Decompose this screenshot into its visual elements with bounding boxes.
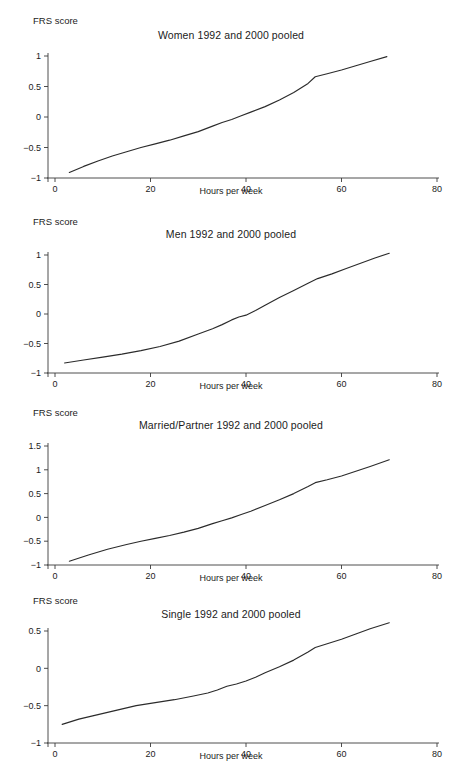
- x-axis-label-men: Hours per week: [0, 381, 462, 391]
- y-tick-label: −0.5: [23, 701, 41, 711]
- chart-panel-women: FRS score Women 1992 and 2000 pooled −1−…: [0, 0, 462, 196]
- x-axis-label-single: Hours per week: [0, 751, 462, 761]
- data-line-men: [65, 253, 390, 363]
- figure-panel-grid: FRS score Women 1992 and 2000 pooled −1−…: [0, 0, 462, 764]
- y-tick-label: 0: [36, 513, 41, 523]
- y-tick-label: 0: [36, 309, 41, 319]
- y-tick-label: 0.5: [28, 626, 41, 636]
- y-tick-label: 0: [36, 112, 41, 122]
- data-line-women: [69, 57, 387, 173]
- y-tick-label: 0: [36, 664, 41, 674]
- chart-panel-married: FRS score Married/Partner 1992 and 2000 …: [0, 391, 462, 583]
- data-line-single: [62, 623, 389, 725]
- y-tick-label: 1.5: [28, 441, 41, 451]
- plot-area-women: −1−0.500.51020406080: [0, 0, 462, 196]
- chart-panel-men: FRS score Men 1992 and 2000 pooled −1−0.…: [0, 196, 462, 391]
- x-axis-label-married: Hours per week: [0, 573, 462, 583]
- y-tick-label: −1: [31, 738, 41, 748]
- y-tick-label: −0.5: [23, 143, 41, 153]
- x-axis-label-women: Hours per week: [0, 186, 462, 196]
- y-tick-label: 1: [36, 51, 41, 61]
- y-tick-label: 1: [36, 465, 41, 475]
- chart-panel-single: FRS score Single 1992 and 2000 pooled −1…: [0, 583, 462, 764]
- y-tick-label: −1: [31, 560, 41, 570]
- y-tick-label: 1: [36, 250, 41, 260]
- y-tick-label: 0.5: [28, 82, 41, 92]
- plot-area-married: −1−0.500.511.5020406080: [0, 391, 462, 583]
- y-tick-label: −0.5: [23, 339, 41, 349]
- y-tick-label: 0.5: [28, 280, 41, 290]
- data-line-married-partner: [69, 460, 389, 561]
- y-tick-label: 0.5: [28, 489, 41, 499]
- y-tick-label: −1: [31, 173, 41, 183]
- y-tick-label: −1: [31, 368, 41, 378]
- plot-area-single: −1−0.500.5020406080: [0, 583, 462, 764]
- plot-area-men: −1−0.500.51020406080: [0, 196, 462, 391]
- y-tick-label: −0.5: [23, 536, 41, 546]
